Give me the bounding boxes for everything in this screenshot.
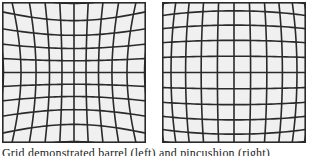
figure-caption: Grid demonstrated barrel (left) and pinc…	[2, 146, 270, 156]
barrel-distortion-grid	[2, 2, 146, 143]
pincushion-distortion-grid	[162, 2, 306, 143]
pincushion-grid-graphic	[162, 2, 306, 143]
barrel-grid-graphic	[2, 2, 146, 143]
